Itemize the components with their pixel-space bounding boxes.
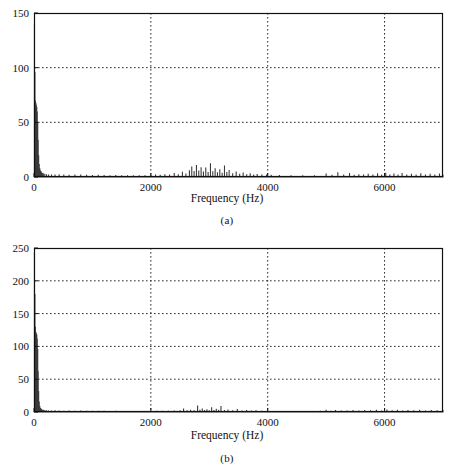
panel-caption-b: (b) [0, 452, 454, 464]
x-axis-title-b: Frequency (Hz) [0, 429, 454, 441]
y-tick-label: 150 [13, 308, 30, 320]
x-axis-title-a: Frequency (Hz) [0, 192, 454, 204]
y-tick-label: 200 [13, 275, 30, 287]
y-tick-label: 250 [13, 242, 30, 254]
y-tick-label: 100 [13, 62, 30, 74]
panel-caption-a: (a) [0, 214, 454, 226]
spectrum-figure: 0200040006000050100150 Frequency (Hz) (a… [0, 0, 454, 475]
y-tick-label: 0 [24, 171, 30, 183]
plot-frame [35, 249, 443, 412]
y-tick-label: 50 [18, 116, 30, 128]
x-tick-label: 0 [31, 416, 37, 428]
y-tick-label: 100 [13, 340, 30, 352]
x-tick-label: 6000 [374, 416, 397, 428]
y-tick-label: 150 [13, 7, 30, 19]
x-tick-label: 2000 [140, 416, 163, 428]
plot-frame [35, 14, 443, 177]
x-tick-label: 4000 [257, 416, 280, 428]
spectrum-trace [34, 24, 443, 177]
spectrum-trace [34, 252, 443, 412]
y-tick-label: 50 [18, 373, 30, 385]
y-tick-label: 0 [24, 406, 30, 418]
